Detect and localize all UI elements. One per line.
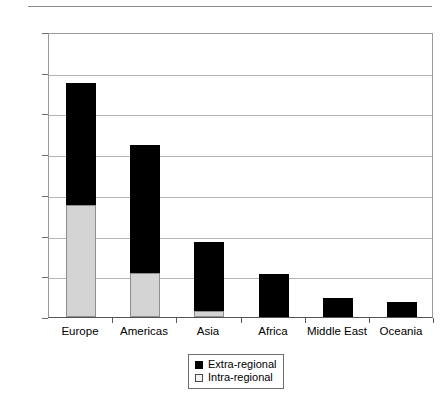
gridline [49, 278, 432, 279]
legend-item-extra-regional: Extra-regional [195, 358, 276, 371]
stacked-bar-chart-figure: 3,5003,0002,5002,0001,5001,0005000 Europ… [0, 0, 448, 403]
x-axis-tick-mark [369, 318, 370, 323]
x-axis-tick-mark [112, 318, 113, 323]
bar-group[interactable] [323, 32, 353, 317]
gridline [49, 75, 432, 76]
x-axis-tick-mark [433, 318, 434, 323]
gridline [49, 115, 432, 116]
bar-segment-intra-regional[interactable] [130, 273, 160, 317]
bar-segment-extra-regional[interactable] [66, 83, 96, 205]
y-axis-tick-mark [42, 318, 48, 319]
bar-group[interactable] [66, 32, 96, 317]
chart-title-fragment [112, 0, 136, 4]
x-axis-tick-label: Africa [258, 325, 287, 338]
legend-item-intra-regional: Intra-regional [195, 371, 276, 384]
bar-segment-extra-regional[interactable] [259, 274, 289, 317]
gridline [49, 156, 432, 157]
x-axis-tick-mark [241, 318, 242, 323]
chart-legend: Extra-regional Intra-regional [188, 354, 284, 389]
x-axis-tick-mark [305, 318, 306, 323]
bar-group[interactable] [130, 32, 160, 317]
header-rule [28, 6, 432, 7]
x-axis-tick-label: Middle East [307, 325, 367, 338]
bar-segment-extra-regional[interactable] [387, 302, 417, 317]
x-axis-tick-label: Americas [120, 325, 168, 338]
bar-group[interactable] [387, 32, 417, 317]
bar-group[interactable] [194, 32, 224, 317]
white-square-icon [195, 374, 203, 382]
legend-label-intra-regional: Intra-regional [208, 372, 273, 383]
gridline [49, 197, 432, 198]
x-axis-tick-label: Europe [61, 325, 98, 338]
legend-label-extra-regional: Extra-regional [208, 359, 276, 370]
bar-segment-extra-regional[interactable] [323, 298, 353, 317]
gridline [49, 238, 432, 239]
bar-segment-intra-regional[interactable] [194, 311, 224, 317]
x-axis-tick-label: Oceania [380, 325, 423, 338]
x-axis-tick-mark [176, 318, 177, 323]
black-square-icon [195, 361, 203, 369]
bar-segment-extra-regional[interactable] [194, 242, 224, 311]
x-axis-tick-label: Asia [197, 325, 219, 338]
bar-segment-extra-regional[interactable] [130, 145, 160, 273]
bar-group[interactable] [259, 32, 289, 317]
plot-area [48, 33, 433, 318]
bar-segment-intra-regional[interactable] [66, 205, 96, 317]
